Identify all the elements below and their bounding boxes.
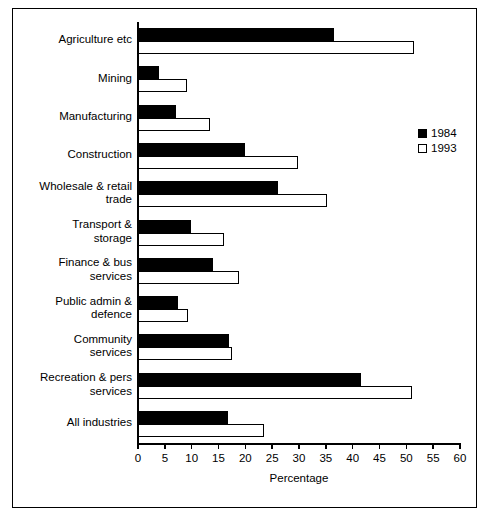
category-label-line: Wholesale & retail — [8, 180, 132, 194]
x-tick-0 — [137, 443, 139, 449]
bar-1993-finance-bus-services — [138, 271, 239, 284]
bar-1984-public-admin-defence — [138, 296, 178, 309]
legend-swatch-filled-icon — [418, 129, 427, 138]
bar-1984-mining — [138, 66, 159, 79]
bar-1984-finance-bus-services — [138, 258, 213, 271]
category-label-line: Construction — [8, 148, 132, 162]
legend-item-1993: 1993 — [418, 141, 457, 156]
x-tick-25 — [271, 443, 273, 449]
bar-1993-wholesale-retail-trade — [138, 194, 327, 207]
x-tick-15 — [218, 443, 220, 449]
category-label-line: Mining — [8, 72, 132, 86]
category-label-line: Public admin & — [8, 295, 132, 309]
bar-1993-transport-storage — [138, 233, 224, 246]
x-tick-30 — [298, 443, 300, 449]
category-label-manufacturing: Manufacturing — [8, 110, 132, 124]
category-label-line: services — [8, 346, 132, 360]
x-tick-55 — [432, 443, 434, 449]
category-label-recreation-pers-services: Recreation & persservices — [8, 371, 132, 398]
category-label-line: Agriculture etc — [8, 33, 132, 47]
category-label-line: Finance & bus — [8, 256, 132, 270]
bar-1984-community-services — [138, 334, 229, 347]
x-axis-title: Percentage — [138, 472, 460, 484]
x-tick-40 — [352, 443, 354, 449]
bar-1993-mining — [138, 79, 187, 92]
legend-item-1984: 1984 — [418, 126, 457, 141]
category-label-finance-bus-services: Finance & busservices — [8, 256, 132, 283]
category-label-community-services: Communityservices — [8, 333, 132, 360]
bar-1993-recreation-pers-services — [138, 386, 412, 399]
x-tick-label-60: 60 — [440, 452, 480, 464]
category-label-line: All industries — [8, 416, 132, 430]
category-label-wholesale-retail-trade: Wholesale & retailtrade — [8, 180, 132, 207]
category-label-all-industries: All industries — [8, 416, 132, 430]
category-label-line: defence — [8, 308, 132, 322]
x-tick-5 — [164, 443, 166, 449]
bar-1984-transport-storage — [138, 220, 191, 233]
bar-1993-construction — [138, 156, 298, 169]
bar-1993-all-industries — [138, 424, 264, 437]
category-label-line: Recreation & pers — [8, 371, 132, 385]
bar-1984-recreation-pers-services — [138, 373, 361, 386]
bar-1984-wholesale-retail-trade — [138, 181, 278, 194]
legend-label-1993: 1993 — [431, 141, 457, 156]
category-label-transport-storage: Transport &storage — [8, 218, 132, 245]
chart-legend: 1984 1993 — [418, 126, 457, 156]
legend-swatch-hollow-icon — [418, 144, 427, 153]
category-label-line: trade — [8, 193, 132, 207]
bar-1984-construction — [138, 143, 245, 156]
bar-1993-community-services — [138, 347, 232, 360]
bar-1984-manufacturing — [138, 105, 176, 118]
bar-1993-agriculture-etc — [138, 41, 414, 54]
bar-1993-public-admin-defence — [138, 309, 188, 322]
x-tick-50 — [406, 443, 408, 449]
legend-label-1984: 1984 — [431, 126, 457, 141]
x-tick-10 — [191, 443, 193, 449]
bar-1984-all-industries — [138, 411, 228, 424]
category-label-public-admin-defence: Public admin &defence — [8, 295, 132, 322]
category-label-line: Manufacturing — [8, 110, 132, 124]
x-tick-45 — [379, 443, 381, 449]
category-label-line: services — [8, 385, 132, 399]
category-label-line: storage — [8, 232, 132, 246]
x-tick-60 — [459, 443, 461, 449]
x-tick-20 — [245, 443, 247, 449]
category-label-agriculture-etc: Agriculture etc — [8, 33, 132, 47]
bar-chart-figure: Agriculture etcMiningManufacturingConstr… — [0, 0, 495, 520]
category-label-line: Community — [8, 333, 132, 347]
category-label-mining: Mining — [8, 72, 132, 86]
bar-1984-agriculture-etc — [138, 28, 334, 41]
category-label-line: services — [8, 270, 132, 284]
x-tick-35 — [325, 443, 327, 449]
category-label-construction: Construction — [8, 148, 132, 162]
bar-1993-manufacturing — [138, 118, 210, 131]
category-label-line: Transport & — [8, 218, 132, 232]
